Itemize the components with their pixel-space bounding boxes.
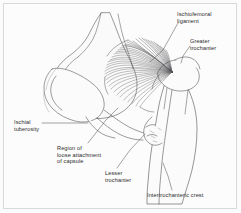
leader-ischiofemoral — [150, 23, 178, 62]
label-intertrochanteric-crest: Intertrochanteric crest — [147, 192, 233, 199]
anatomy-figure: Ischiofemoral ligament Greater trochante… — [0, 0, 241, 213]
label-ischiofemoral-ligament: Ischiofemoral ligament — [177, 11, 227, 24]
label-greater-trochanter: Greater trochanter — [190, 38, 236, 51]
label-lesser-trochanter: Lesser trochanter — [105, 170, 149, 183]
label-region-of-loose-attachment: Region of loose attachment of capsule — [57, 145, 113, 165]
label-ischial-tuberosity: Ischial tuberosity — [14, 119, 58, 132]
leader-lesser-trochanter — [117, 134, 145, 168]
